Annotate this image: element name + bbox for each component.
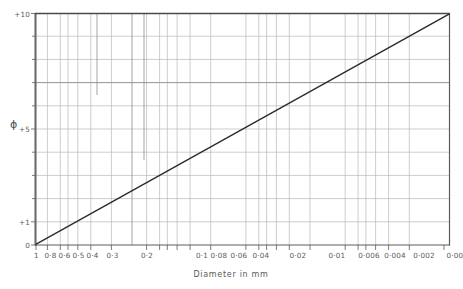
y-tick-label-5: +5 [8, 125, 30, 134]
x-tick-label-0-06: 0·06 [231, 251, 248, 260]
x-tick-label-0-4: 0·4 [86, 251, 98, 260]
x-tick-label-0-08: 0·08 [211, 251, 228, 260]
y-tick-label-0: 0 [8, 241, 30, 250]
x-tick-label-0-01: 0·01 [329, 251, 346, 260]
x-tick-label-0-001: 0·00 [447, 251, 463, 260]
x-tick-label-0-1: 0·1 [196, 251, 208, 260]
x-tick-label-0-6: 0·6 [58, 251, 70, 260]
y-tick-label-10: +10 [8, 10, 30, 19]
x-tick-label-0-5: 0·5 [72, 251, 84, 260]
x-axis-title: Diameter in mm [0, 270, 462, 279]
y-tick-label-1: +1 [8, 218, 30, 227]
x-axis-ticks [36, 245, 444, 250]
x-tick-label-0-004: 0·004 [384, 251, 406, 260]
y-axis-ticks [31, 14, 35, 246]
x-tick-label-0-3: 0·3 [106, 251, 118, 260]
x-tick-label-0-006: 0·006 [358, 251, 380, 260]
x-tick-label-0-8: 0·8 [44, 251, 56, 260]
x-tick-label-0-002: 0·002 [413, 251, 435, 260]
x-tick-label-0-2: 0·2 [141, 251, 153, 260]
x-tick-label-0-02: 0·02 [290, 251, 307, 260]
x-tick-label-1: 1 [34, 251, 39, 260]
x-tick-label-0-04: 0·04 [253, 251, 270, 260]
